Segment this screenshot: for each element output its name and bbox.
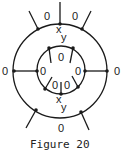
vertex-top-right: [80, 27, 84, 31]
chord-bottom-right: [72, 76, 78, 87]
vertex-right-inner: [83, 69, 87, 73]
edge-top-left: [29, 11, 38, 29]
label-inner-right: 0: [75, 65, 81, 77]
vertex-inner-top-left: [47, 46, 51, 50]
edge-top-right: [82, 11, 91, 29]
chord-top-right: [70, 48, 73, 63]
label-top-y: y: [61, 31, 67, 43]
vertex-left-inner: [35, 69, 39, 73]
vertex-right-outer: [105, 69, 109, 73]
figure-20-diagram: 0 0 0 0 0 0 0 0 0 0 x y x y Figure 20: [0, 0, 125, 153]
label-outer-right: 0: [114, 65, 120, 77]
vertex-inner-bottom-left: [43, 87, 47, 91]
vertex-bottom-left: [34, 108, 38, 112]
label-inner-bottom-right: 0: [64, 79, 70, 91]
edge-bottom-right: [81, 112, 89, 130]
label-inner-bottom-left: 0: [52, 79, 58, 91]
label-outer-bottom: 0: [58, 122, 64, 134]
vertex-bottom-right: [79, 110, 83, 114]
vertex-inner-bottom-right: [76, 85, 80, 89]
vertex-inner-top-right: [71, 46, 75, 50]
label-outer-left: 0: [2, 65, 8, 77]
chord-top-left: [49, 48, 51, 63]
chord-bottom-left: [45, 77, 52, 89]
label-outer-top-left: 0: [44, 10, 50, 22]
vertex-top-left: [36, 27, 40, 31]
label-inner-left: 0: [40, 65, 46, 77]
label-inner-top: 0: [58, 51, 64, 63]
label-bottom-y: y: [61, 101, 67, 113]
label-outer-top-right: 0: [72, 10, 78, 22]
figure-caption: Figure 20: [30, 138, 90, 151]
vertex-left-outer: [12, 69, 16, 73]
edge-bottom-left: [26, 110, 36, 128]
